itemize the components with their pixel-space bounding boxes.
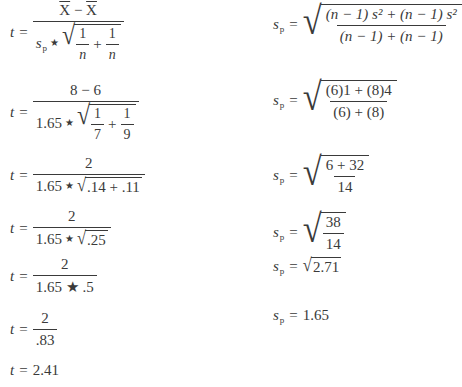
t-step-4: t = 2 1.65 ★ √.25 bbox=[10, 208, 111, 249]
equals-sign: = bbox=[19, 24, 27, 41]
fraction: X − X sp ★ √ 1n + 1n bbox=[33, 2, 124, 63]
t-symbol: t bbox=[10, 24, 14, 41]
t-formula: t = X − X sp ★ √ 1n + 1n bbox=[10, 2, 124, 63]
sp-step-3: sp = √ 6 + 3214 bbox=[273, 155, 369, 196]
radical-icon: √ bbox=[303, 209, 322, 256]
minus: − bbox=[74, 2, 82, 18]
radical-icon: √ bbox=[303, 77, 322, 124]
numerator: X − X bbox=[56, 2, 100, 21]
radical-icon: √ bbox=[77, 101, 90, 146]
radical-icon: √ bbox=[303, 152, 322, 199]
sp-formula: sp = √ (n − 1) s² + (n − 1) s²(n − 1) + … bbox=[273, 4, 462, 45]
radical-icon: √ bbox=[303, 1, 322, 48]
t-formula-substituted: t = 8 − 6 1.65 ★ √ 17 + 19 bbox=[10, 82, 139, 143]
x-bar: X bbox=[86, 2, 97, 18]
radical-icon: √ bbox=[62, 21, 75, 66]
star-operator-icon: ★ bbox=[65, 180, 74, 191]
t-step-5: t = 2 1.65 ★ .5 bbox=[10, 256, 97, 296]
star-operator-icon: ★ bbox=[65, 233, 74, 244]
star-operator-icon: ★ bbox=[65, 117, 74, 128]
t-result: t = 2.41 bbox=[10, 362, 59, 379]
square-root: √ 1n + 1n bbox=[62, 24, 121, 63]
sp-step-4: sp = √ 3814 bbox=[273, 212, 346, 253]
sp-symbol: sp bbox=[36, 35, 47, 52]
star-operator-icon: ★ bbox=[50, 37, 59, 48]
radical-icon: √ bbox=[77, 229, 86, 251]
radical-icon: √ bbox=[303, 256, 312, 278]
t-step-3: t = 2 1.65 ★ √.14 + .11 bbox=[10, 155, 145, 196]
t-step-6: t = 2 .83 bbox=[10, 310, 57, 349]
sp-step-5: sp = √2.71 bbox=[273, 257, 341, 276]
denominator: sp ★ √ 1n + 1n bbox=[33, 21, 124, 63]
x-bar: X bbox=[59, 2, 70, 18]
sp-result: sp = 1.65 bbox=[273, 307, 329, 324]
sp-substituted: sp = √ (6)1 + (8)4(6) + (8) bbox=[273, 80, 397, 121]
radical-icon: √ bbox=[77, 176, 86, 198]
